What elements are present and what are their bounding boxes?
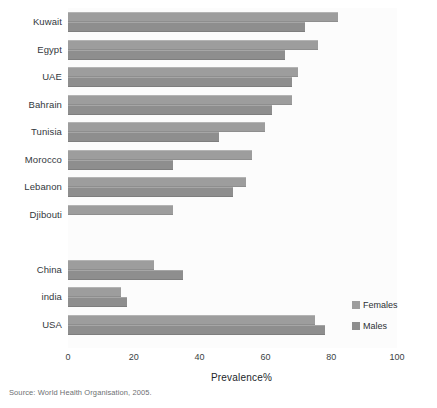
- x-tick-60: 60: [260, 352, 270, 362]
- bar-uae-males[interactable]: [68, 77, 292, 87]
- bar-morocco-males[interactable]: [68, 160, 173, 170]
- bar-tunisia-males[interactable]: [68, 132, 219, 142]
- bar-group-uae: [68, 67, 397, 87]
- bar-egypt-females[interactable]: [68, 40, 318, 50]
- category-label-uae: UAE: [0, 71, 62, 82]
- bar-group-egypt: [68, 40, 397, 60]
- bar-group-spacer: [68, 232, 397, 252]
- plot-area: [68, 8, 397, 348]
- category-label-djibouti: Djibouti: [0, 209, 62, 220]
- legend-swatch-males-icon: [352, 322, 360, 330]
- bar-group-china: [68, 260, 397, 280]
- bar-bahrain-males[interactable]: [68, 105, 272, 115]
- bar-lebanon-females[interactable]: [68, 177, 246, 187]
- category-label-bahrain: Bahrain: [0, 99, 62, 110]
- chart-legend: Females Males: [352, 300, 398, 342]
- bar-lebanon-males[interactable]: [68, 187, 233, 197]
- bar-egypt-males[interactable]: [68, 50, 285, 60]
- bar-djibouti-females[interactable]: [68, 205, 173, 215]
- category-label-tunisia: Tunisia: [0, 126, 62, 137]
- bar-china-males[interactable]: [68, 270, 183, 280]
- chart-figure: KuwaitEgyptUAEBahrainTunisiaMoroccoLeban…: [0, 0, 437, 408]
- category-label-egypt: Egypt: [0, 44, 62, 55]
- bar-usa-females[interactable]: [68, 315, 315, 325]
- bar-group-kuwait: [68, 12, 397, 32]
- bar-kuwait-males[interactable]: [68, 22, 305, 32]
- bar-bahrain-females[interactable]: [68, 95, 292, 105]
- bar-uae-females[interactable]: [68, 67, 298, 77]
- bar-china-females[interactable]: [68, 260, 154, 270]
- legend-label-females: Females: [363, 300, 398, 310]
- x-axis-title-text: Prevalence%: [211, 372, 272, 383]
- category-label-india: india: [0, 291, 62, 302]
- x-tick-20: 20: [129, 352, 139, 362]
- bar-group-morocco: [68, 150, 397, 170]
- bars-layer: [68, 8, 397, 348]
- bar-india-females[interactable]: [68, 287, 121, 297]
- x-axis-tick-labels: 020406080100: [68, 352, 397, 366]
- bar-tunisia-females[interactable]: [68, 122, 265, 132]
- legend-swatch-females-icon: [352, 301, 360, 309]
- category-label-morocco: Morocco: [0, 154, 62, 165]
- category-label-kuwait: Kuwait: [0, 16, 62, 27]
- bar-usa-males[interactable]: [68, 325, 325, 335]
- category-label-lebanon: Lebanon: [0, 181, 62, 192]
- x-axis-title: Prevalence%: [0, 372, 437, 383]
- bar-group-india: [68, 287, 397, 307]
- legend-item-females[interactable]: Females: [352, 300, 398, 310]
- bar-group-tunisia: [68, 122, 397, 142]
- x-tick-0: 0: [65, 352, 70, 362]
- x-tick-40: 40: [195, 352, 205, 362]
- bar-group-lebanon: [68, 177, 397, 197]
- legend-item-males[interactable]: Males: [352, 321, 398, 331]
- bar-group-bahrain: [68, 95, 397, 115]
- bar-india-males[interactable]: [68, 297, 127, 307]
- bar-morocco-females[interactable]: [68, 150, 252, 160]
- bar-group-usa: [68, 315, 397, 335]
- bar-kuwait-females[interactable]: [68, 12, 338, 22]
- x-tick-100: 100: [389, 352, 404, 362]
- legend-label-males: Males: [363, 321, 387, 331]
- source-note: Source: World Health Organisation, 2005.: [9, 388, 152, 397]
- category-label-usa: USA: [0, 319, 62, 330]
- bar-group-djibouti: [68, 205, 397, 225]
- x-tick-80: 80: [326, 352, 336, 362]
- category-label-china: China: [0, 264, 62, 275]
